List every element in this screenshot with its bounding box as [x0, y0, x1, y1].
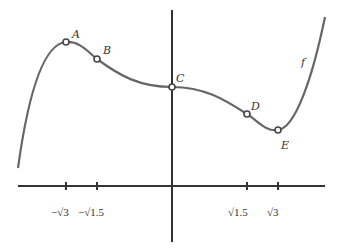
tick-label-sqrt1-5: √1.5 [228, 206, 248, 218]
point-a [63, 39, 69, 45]
label-c: C [176, 72, 185, 85]
point-c [169, 84, 175, 90]
label-b: B [102, 44, 111, 57]
label-f: f [300, 56, 307, 69]
point-d [244, 111, 250, 117]
tick-label-sqrt3: √3 [267, 206, 279, 218]
tick-label-neg-sqrt3: −√3 [51, 206, 69, 218]
point-e [275, 127, 281, 133]
tick-label-neg-sqrt1-5: −√1.5 [78, 206, 104, 218]
point-b [94, 56, 100, 62]
label-a: A [71, 28, 80, 41]
label-d: D [250, 100, 260, 113]
function-graph: A B C D E f −√3 −√1.5 √1.5 √3 [0, 0, 347, 248]
label-e: E [280, 139, 289, 152]
